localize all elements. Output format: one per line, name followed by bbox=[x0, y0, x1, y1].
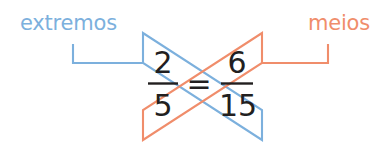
equals-sign: = bbox=[186, 69, 211, 99]
right-numerator: 6 bbox=[227, 48, 246, 78]
proportion-diagram: extremos meios 2 5 = 6 15 bbox=[0, 0, 390, 160]
extremes-bracket-line bbox=[73, 44, 143, 63]
means-bracket-line bbox=[262, 44, 328, 63]
right-denominator: 15 bbox=[219, 91, 257, 121]
extremes-label: extremos bbox=[20, 13, 117, 34]
left-denominator: 5 bbox=[153, 91, 172, 121]
left-numerator: 2 bbox=[153, 48, 172, 78]
means-label: meios bbox=[308, 13, 370, 34]
